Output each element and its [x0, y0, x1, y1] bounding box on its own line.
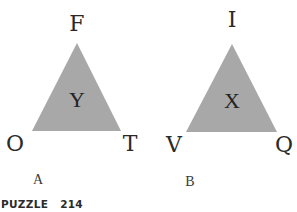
- figure-a-vertex-bottom-right: T: [123, 133, 138, 155]
- figure-b-vertex-bottom-right: Q: [275, 134, 293, 156]
- puzzle-number: 214: [60, 198, 83, 210]
- puzzle-canvas: F Y O T A I X V Q B PUZZLE214: [0, 0, 297, 212]
- figure-a-vertex-top: F: [69, 13, 84, 35]
- puzzle-title: PUZZLE214: [1, 198, 83, 210]
- figure-b-vertex-top: I: [228, 9, 237, 31]
- puzzle-title-word: PUZZLE: [1, 198, 48, 210]
- triangles-layer: [0, 0, 297, 212]
- figure-b-vertex-bottom-left: V: [166, 134, 182, 156]
- figure-b-caption: B: [185, 175, 194, 189]
- figure-b-center-letter: X: [224, 90, 240, 112]
- figure-a-vertex-bottom-left: O: [6, 133, 24, 155]
- figure-a-center-letter: Y: [69, 89, 85, 111]
- figure-a-caption: A: [33, 173, 43, 187]
